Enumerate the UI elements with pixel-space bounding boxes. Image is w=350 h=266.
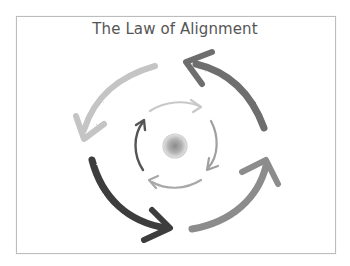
- inner-arrow-bottom: [149, 176, 201, 188]
- inner-arrow-top: [150, 100, 201, 112]
- alignment-cycle-diagram: [0, 0, 350, 266]
- center-core: [163, 134, 187, 158]
- outer-arrow-top-right: [186, 52, 264, 128]
- outer-arrow-bottom-left: [92, 160, 170, 240]
- inner-arrow-left: [136, 120, 146, 170]
- inner-arrow-right: [207, 121, 218, 170]
- outer-arrow-bottom-right: [192, 160, 278, 229]
- outer-arrow-top-left: [76, 66, 155, 139]
